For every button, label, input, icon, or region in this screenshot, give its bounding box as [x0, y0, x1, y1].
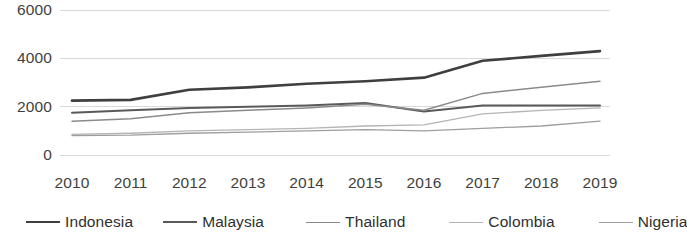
series-line-thailand [72, 81, 600, 121]
plot-area: 0200040006000 20102011201220132014201520… [0, 0, 615, 200]
legend-swatch-icon [599, 222, 633, 223]
legend-item-nigeria[interactable]: Nigeria [599, 213, 687, 231]
y-axis-tick-label: 6000 [17, 1, 52, 19]
legend-label: Thailand [345, 213, 405, 231]
series-lines [72, 51, 600, 136]
x-axis-tick-label: 2016 [407, 174, 442, 192]
legend-swatch-icon [449, 222, 483, 223]
legend-label: Nigeria [638, 213, 687, 231]
legend-label: Colombia [488, 213, 554, 231]
x-axis: 2010201120122013201420152016201720182019 [58, 166, 610, 198]
chart-legend: IndonesiaMalaysiaThailandColombiaNigeria [0, 204, 615, 240]
x-axis-tick-label: 2019 [583, 174, 618, 192]
legend-label: Indonesia [65, 213, 133, 231]
y-axis: 0200040006000 [0, 0, 58, 170]
x-axis-tick-label: 2018 [524, 174, 559, 192]
x-axis-tick-label: 2017 [465, 174, 500, 192]
series-line-nigeria [72, 121, 600, 136]
legend-item-thailand[interactable]: Thailand [306, 213, 405, 231]
x-axis-tick-label: 2015 [348, 174, 383, 192]
y-axis-tick-label: 2000 [17, 98, 52, 116]
x-axis-tick-label: 2012 [172, 174, 207, 192]
legend-item-indonesia[interactable]: Indonesia [26, 213, 133, 231]
legend-swatch-icon [163, 221, 197, 223]
x-axis-tick-label: 2010 [55, 174, 90, 192]
y-axis-tick-label: 4000 [17, 49, 52, 67]
x-axis-tick-label: 2014 [289, 174, 324, 192]
legend-item-malaysia[interactable]: Malaysia [163, 213, 264, 231]
legend-item-colombia[interactable]: Colombia [449, 213, 554, 231]
legend-swatch-icon [306, 222, 340, 223]
legend-swatch-icon [26, 221, 60, 223]
x-axis-tick-label: 2011 [114, 174, 148, 192]
y-axis-tick-label: 0 [43, 146, 52, 164]
legend-label: Malaysia [202, 213, 264, 231]
x-axis-tick-label: 2013 [231, 174, 266, 192]
